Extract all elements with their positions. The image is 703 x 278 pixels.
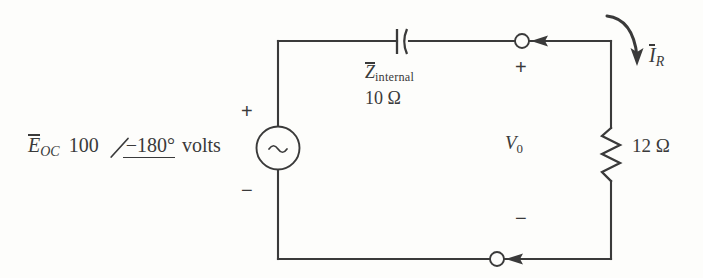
source-minus-sign: − <box>241 180 253 200</box>
source-units: volts <box>182 134 221 156</box>
source-name-subscript: OC <box>40 144 59 159</box>
angle-underline <box>123 157 175 158</box>
output-voltage-subscript: 0 <box>517 141 524 156</box>
impedance-name-subscript: internal <box>375 70 414 84</box>
output-voltage-label: V0 <box>505 133 523 156</box>
current-arrow <box>607 16 644 66</box>
resistor-value-label: 12 Ω <box>632 136 670 155</box>
resistor-symbol <box>602 128 620 181</box>
source-magnitude: 100 <box>69 134 99 156</box>
output-minus-sign: − <box>515 208 527 228</box>
source-plus-sign: + <box>241 101 253 121</box>
source-phase: −180° <box>126 134 175 156</box>
ac-source-symbol <box>257 127 300 170</box>
output-voltage-name: V <box>505 132 517 153</box>
impedance-name: Z <box>365 62 375 81</box>
circuit-diagram: EOC100 −180° volts Zinternal 10 Ω 12 Ω I… <box>0 0 703 278</box>
source-name: E <box>28 134 40 155</box>
current-name: I <box>649 44 656 65</box>
source-label: EOC100 −180° volts <box>28 134 221 159</box>
current-name-subscript: R <box>656 54 665 69</box>
terminal-top <box>515 34 529 48</box>
source-angle-notation: −180° <box>110 135 175 158</box>
impedance-value: 10 Ω <box>365 89 414 107</box>
angle-icon <box>110 137 129 158</box>
current-label: IR <box>649 44 664 69</box>
output-plus-sign: + <box>515 57 527 77</box>
terminal-bottom <box>490 252 504 266</box>
impedance-label: Zinternal 10 Ω <box>365 62 414 107</box>
capacitor-symbol <box>397 29 407 54</box>
